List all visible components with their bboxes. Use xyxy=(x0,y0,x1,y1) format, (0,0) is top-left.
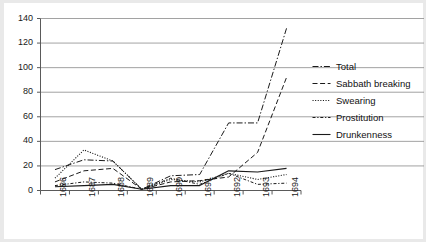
x-tick-label: 1690 xyxy=(175,176,184,196)
series-line-total xyxy=(55,28,287,189)
x-tick-label: 1692 xyxy=(233,176,242,196)
x-tick-label: 1687 xyxy=(88,176,97,196)
legend-item-drunkenness[interactable]: Drunkenness xyxy=(312,126,424,143)
y-tick-label: 80 xyxy=(3,87,33,96)
legend-item-total[interactable]: Total xyxy=(312,58,424,75)
legend-label: Prostitution xyxy=(336,113,384,123)
series-lines xyxy=(55,28,287,189)
x-tick-label: 1693 xyxy=(262,176,271,196)
y-tick-marks xyxy=(37,19,41,191)
legend-label: Sabbath breaking xyxy=(336,79,410,89)
x-tick-label: 1689 xyxy=(146,176,155,196)
x-tick-label: 1694 xyxy=(291,176,300,196)
legend-line-swatch-icon xyxy=(312,96,331,105)
legend-line-swatch-icon xyxy=(312,79,331,88)
chart-legend: TotalSabbath breakingSwearingProstitutio… xyxy=(312,58,424,143)
y-tick-label: 140 xyxy=(3,14,33,23)
legend-line-swatch-icon xyxy=(312,62,331,71)
y-tick-label: 100 xyxy=(3,63,33,72)
y-tick-label: 40 xyxy=(3,136,33,145)
legend-line-swatch-icon xyxy=(312,113,331,122)
y-tick-label: 20 xyxy=(3,161,33,170)
y-tick-label: 120 xyxy=(3,38,33,47)
x-tick-label: 1686 xyxy=(59,176,68,196)
axis-lines xyxy=(41,19,302,191)
legend-label: Swearing xyxy=(336,96,376,106)
legend-item-swearing[interactable]: Swearing xyxy=(312,92,424,109)
y-tick-label: 60 xyxy=(3,112,33,121)
legend-line-swatch-icon xyxy=(312,130,331,139)
legend-item-sabbath-breaking[interactable]: Sabbath breaking xyxy=(312,75,424,92)
y-tick-label: 0 xyxy=(3,186,33,195)
x-tick-label: 1691 xyxy=(204,176,213,196)
chart-canvas: 020406080100120140 168616871688168916901… xyxy=(0,0,426,242)
legend-label: Total xyxy=(336,62,356,72)
legend-item-prostitution[interactable]: Prostitution xyxy=(312,109,424,126)
series-line-sabbath-breaking xyxy=(55,77,287,189)
x-tick-label: 1688 xyxy=(117,176,126,196)
legend-label: Drunkenness xyxy=(336,130,392,140)
